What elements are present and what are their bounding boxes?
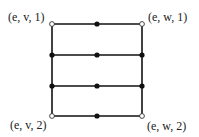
node-bottom-right (140, 114, 145, 119)
label-bottom-left: (e, v, 2) (10, 118, 47, 132)
node-top-mid (94, 21, 99, 26)
node-r3-mid (94, 83, 99, 88)
label-bottom-right: (e, w, 2) (147, 119, 186, 133)
node-r2-left (49, 52, 54, 57)
node-r3-left (49, 83, 54, 88)
node-bottom-left (50, 114, 55, 119)
node-r2-right (139, 52, 144, 57)
node-top-left (50, 22, 55, 27)
node-top-right (140, 22, 145, 27)
node-r3-right (139, 83, 144, 88)
label-top-right: (e, w, 1) (148, 10, 187, 24)
label-top-left: (e, v, 1) (8, 10, 45, 24)
node-r2-mid (94, 52, 99, 57)
graph-diagram: (e, v, 1) (e, w, 1) (e, v, 2) (e, w, 2) (0, 0, 199, 137)
node-bottom-mid (94, 113, 99, 118)
